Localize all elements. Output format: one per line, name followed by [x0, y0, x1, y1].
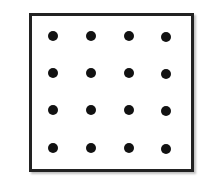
grid-dot [161, 106, 171, 116]
grid-dot [86, 68, 96, 78]
grid-dot [124, 143, 134, 153]
grid-dot [161, 144, 171, 154]
grid-dot [48, 105, 58, 115]
grid-dot [161, 69, 171, 79]
grid-dot [124, 105, 134, 115]
grid-dot [124, 68, 134, 78]
grid-dot [48, 31, 58, 41]
grid-dot [86, 143, 96, 153]
grid-dot [124, 31, 134, 41]
grid-dot [48, 68, 58, 78]
grid-dot [86, 31, 96, 41]
grid-dot [48, 143, 58, 153]
grid-dot [86, 105, 96, 115]
grid-dot [161, 32, 171, 42]
